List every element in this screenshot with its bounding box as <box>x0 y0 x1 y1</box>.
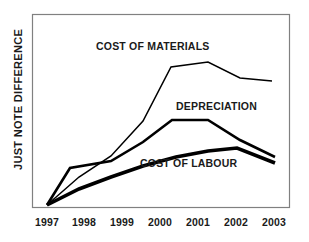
x-tick-label-1999: 1999 <box>110 216 134 228</box>
x-tick-label-1998: 1998 <box>72 216 96 228</box>
line-chart: JUST NOTE DIFFERENCE COST OF MATERIALS D… <box>0 0 309 242</box>
x-tick-label-1997: 1997 <box>35 216 59 228</box>
y-axis-title: JUST NOTE DIFFERENCE <box>12 29 24 170</box>
annotation-cost-of-materials: COST OF MATERIALS <box>96 40 209 52</box>
x-tick-label-2001: 2001 <box>186 216 210 228</box>
annotation-depreciation: DEPRECIATION <box>176 100 257 112</box>
annotation-cost-of-labour: COST OF LABOUR <box>140 157 238 169</box>
x-tick-label-2002: 2002 <box>224 216 248 228</box>
x-tick-label-2000: 2000 <box>148 216 172 228</box>
x-tick-label-2003: 2003 <box>262 216 286 228</box>
chart-figure: JUST NOTE DIFFERENCE COST OF MATERIALS D… <box>0 0 309 242</box>
